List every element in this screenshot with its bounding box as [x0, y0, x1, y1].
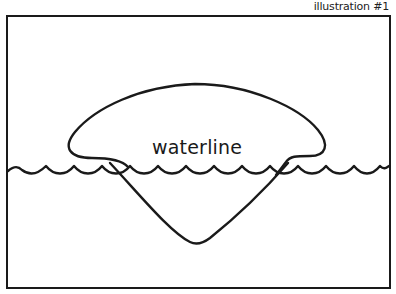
iceberg-below-water — [110, 163, 288, 244]
iceberg-above-water — [69, 84, 325, 175]
waterline-label: waterline — [152, 136, 242, 158]
waterline-wave — [8, 166, 389, 174]
